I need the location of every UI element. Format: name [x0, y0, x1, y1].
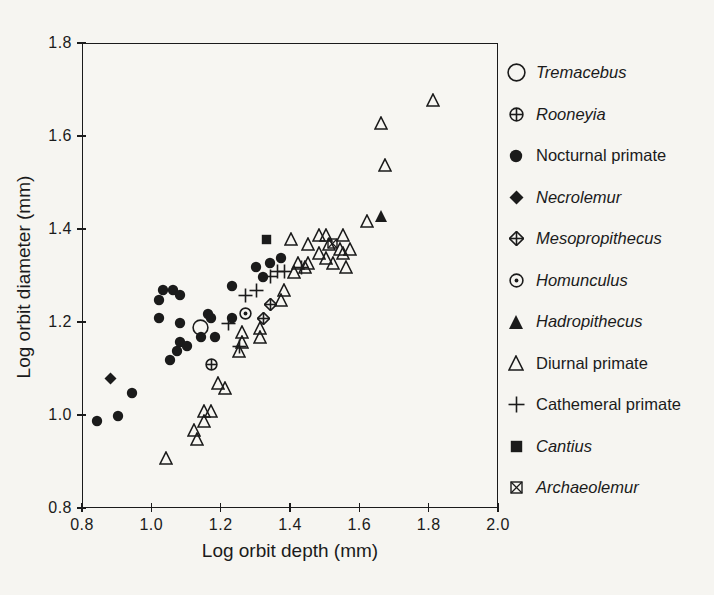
x-tick — [428, 503, 430, 512]
y-tick-label: 1.6 — [38, 127, 72, 145]
legend-label: Hadropithecus — [536, 312, 642, 331]
legend-item-mesopropithecus: Mesopropithecus — [506, 228, 712, 249]
point-diurnal-primate — [204, 404, 218, 418]
point-nocturnal-primate — [153, 312, 165, 324]
legend-label: Diurnal primate — [536, 354, 648, 373]
legend-label: Homunculus — [536, 271, 628, 290]
point-cathemeral-primate — [277, 264, 292, 279]
legend-label: Nocturnal primate — [536, 146, 666, 165]
x-tick — [220, 503, 222, 512]
square-x-icon — [506, 481, 526, 494]
filled-diamond-icon — [506, 190, 526, 205]
point-cantius — [261, 234, 272, 245]
point-archaeolemur — [327, 238, 338, 249]
point-diurnal-primate — [426, 93, 440, 107]
filled-triangle-icon — [506, 314, 526, 330]
y-tick-label: 1.0 — [38, 406, 72, 424]
legend-label: Tremacebus — [536, 63, 626, 82]
x-tick-label: 1.8 — [417, 516, 441, 534]
point-diurnal-primate — [277, 283, 291, 297]
x-axis-title: Log orbit depth (mm) — [82, 540, 498, 562]
point-nocturnal-primate — [195, 331, 207, 343]
point-diurnal-primate — [378, 158, 392, 172]
legend: TremacebusRooneyiaNocturnal primateNecro… — [506, 62, 712, 498]
y-axis-title: Log orbit diameter (mm) — [13, 167, 35, 387]
y-tick-label: 1.4 — [38, 220, 72, 238]
legend-item-homunculus: Homunculus — [506, 270, 712, 291]
x-tick — [359, 503, 361, 512]
x-tick — [289, 503, 291, 512]
point-homunculus — [239, 307, 252, 320]
point-rooneyia — [205, 358, 218, 371]
y-tick — [77, 507, 86, 509]
point-cathemeral-primate — [232, 339, 247, 354]
legend-item-archaeolemur: Archaeolemur — [506, 477, 712, 498]
legend-label: Cathemeral primate — [536, 395, 681, 414]
open-triangle-icon — [506, 355, 526, 371]
point-nocturnal-primate — [126, 387, 138, 399]
point-cathemeral-primate — [221, 316, 236, 331]
x-tick — [497, 503, 499, 512]
legend-item-necrolemur: Necrolemur — [506, 187, 712, 208]
legend-item-nocturnal-primate: Nocturnal primate — [506, 145, 712, 166]
legend-item-cantius: Cantius — [506, 436, 712, 457]
y-tick — [77, 414, 86, 416]
y-tick — [77, 321, 86, 323]
point-nocturnal-primate — [91, 415, 103, 427]
point-nocturnal-primate — [174, 289, 186, 301]
plus-icon — [506, 396, 526, 413]
point-hadropithecus — [374, 209, 388, 223]
diamond-plus-icon — [506, 231, 526, 246]
y-tick — [77, 42, 86, 44]
figure-page: Log orbit diameter (mm) Log orbit depth … — [0, 0, 714, 595]
point-diurnal-primate — [253, 321, 267, 335]
plot-area — [82, 43, 498, 508]
point-nocturnal-primate — [174, 317, 186, 329]
point-diurnal-primate — [218, 381, 232, 395]
point-diurnal-primate — [284, 232, 298, 246]
point-cathemeral-primate — [294, 260, 309, 275]
legend-item-diurnal-primate: Diurnal primate — [506, 353, 712, 374]
point-nocturnal-primate — [275, 252, 287, 264]
filled-square-icon — [506, 440, 526, 453]
point-nocturnal-primate — [181, 340, 193, 352]
point-necrolemur — [104, 372, 117, 385]
y-tick-label: 0.8 — [38, 499, 72, 517]
legend-label: Mesopropithecus — [536, 229, 662, 248]
filled-circle-icon — [506, 149, 526, 163]
legend-label: Rooneyia — [536, 105, 606, 124]
x-tick-label: 2.0 — [486, 516, 510, 534]
point-nocturnal-primate — [226, 280, 238, 292]
point-diurnal-primate — [190, 432, 204, 446]
y-tick — [77, 135, 86, 137]
point-diurnal-primate — [360, 214, 374, 228]
x-tick-label: 1.0 — [139, 516, 163, 534]
legend-label: Cantius — [536, 437, 592, 456]
point-diurnal-primate — [339, 260, 353, 274]
x-tick-label: 1.6 — [347, 516, 371, 534]
point-diurnal-primate — [336, 228, 350, 242]
point-diurnal-primate — [374, 116, 388, 130]
point-diurnal-primate — [159, 451, 173, 465]
point-nocturnal-primate — [112, 410, 124, 422]
point-diurnal-primate — [235, 325, 249, 339]
legend-item-tremacebus: Tremacebus — [506, 62, 712, 83]
x-tick-label: 1.2 — [209, 516, 233, 534]
legend-label: Archaeolemur — [536, 478, 639, 497]
point-nocturnal-primate — [209, 331, 221, 343]
legend-item-rooneyia: Rooneyia — [506, 104, 712, 125]
y-tick — [77, 228, 86, 230]
point-diurnal-primate — [343, 242, 357, 256]
x-tick-label: 0.8 — [70, 516, 94, 534]
y-tick-label: 1.8 — [38, 34, 72, 52]
point-nocturnal-primate — [205, 312, 217, 324]
circle-plus-icon — [506, 107, 526, 122]
x-tick-label: 1.4 — [278, 516, 302, 534]
legend-item-cathemeral-primate: Cathemeral primate — [506, 394, 712, 415]
open-circle-large-icon — [506, 63, 526, 82]
circle-dot-icon — [506, 273, 526, 288]
legend-item-hadropithecus: Hadropithecus — [506, 311, 712, 332]
x-tick — [151, 503, 153, 512]
legend-label: Necrolemur — [536, 188, 621, 207]
point-cathemeral-primate — [249, 283, 264, 298]
